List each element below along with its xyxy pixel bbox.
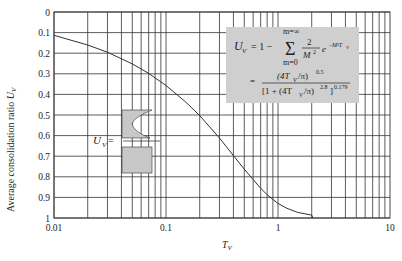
- svg-text:]: ]: [330, 86, 333, 96]
- svg-text:0.9: 0.9: [38, 193, 50, 203]
- sum-lower: m=0: [283, 58, 298, 67]
- inset-label: U: [93, 134, 102, 146]
- svg-text:=: =: [250, 76, 255, 86]
- svg-text:0.7: 0.7: [38, 152, 50, 162]
- svg-text:0.6: 0.6: [38, 131, 50, 141]
- svg-text:0.5: 0.5: [316, 69, 324, 75]
- sum-upper: m=∞: [283, 27, 300, 36]
- svg-text:0.8: 0.8: [38, 172, 50, 182]
- x-axis-label: TV: [222, 239, 233, 252]
- svg-text:/π): /π): [298, 71, 308, 81]
- x-axis-ticks: 0.010.1110: [46, 223, 395, 233]
- svg-text:0.01: 0.01: [46, 223, 63, 233]
- svg-text:−M²T: −M²T: [328, 42, 343, 48]
- svg-text:0: 0: [45, 8, 50, 18]
- svg-text:[1 + (4T: [1 + (4T: [262, 86, 293, 96]
- formula-box: U V = 1 − m=∞ Σ m=0 2 M 2 e −M²T V = (4T…: [226, 27, 359, 103]
- svg-text:1: 1: [45, 214, 50, 224]
- svg-text:0.2: 0.2: [38, 49, 50, 59]
- svg-text:V: V: [242, 47, 247, 55]
- svg-text:0.1: 0.1: [38, 28, 50, 38]
- svg-text:1: 1: [276, 223, 281, 233]
- svg-text:10: 10: [385, 223, 395, 233]
- svg-text:0.1: 0.1: [160, 223, 172, 233]
- svg-text:=: =: [108, 135, 114, 146]
- svg-text:0.4: 0.4: [38, 90, 50, 100]
- y-axis-label: Average consolidation ratio UV: [5, 87, 18, 212]
- inset-diagram: U V =: [93, 110, 160, 173]
- svg-text:M: M: [302, 50, 311, 60]
- svg-text:0.179: 0.179: [334, 84, 348, 90]
- svg-text:= 1 −: = 1 −: [251, 41, 273, 52]
- svg-text:0.5: 0.5: [38, 111, 50, 121]
- svg-text:2: 2: [313, 49, 316, 55]
- svg-text:/π): /π): [304, 86, 314, 96]
- svg-text:2.8: 2.8: [320, 84, 328, 90]
- svg-text:0.3: 0.3: [38, 69, 50, 79]
- sum-symbol: Σ: [285, 39, 295, 59]
- svg-text:2: 2: [307, 37, 312, 47]
- consolidation-chart: U V = 1 − m=∞ Σ m=0 2 M 2 e −M²T V = (4T…: [0, 0, 402, 261]
- svg-text:(4T: (4T: [277, 71, 290, 81]
- svg-text:V: V: [102, 141, 107, 149]
- y-axis-ticks: 00.10.20.30.40.50.60.70.80.91: [38, 8, 50, 224]
- svg-text:e: e: [322, 44, 326, 54]
